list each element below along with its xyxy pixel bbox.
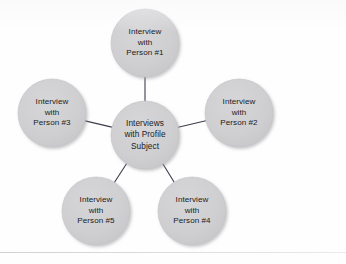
node-circle-interview-with-person-5[interactable] xyxy=(62,177,130,245)
node-circle-interview-with-person-1[interactable] xyxy=(111,9,179,77)
connector-hub-to-person-5 xyxy=(114,163,127,184)
connector-hub-to-person-4 xyxy=(162,163,174,183)
connector-hub-to-person-3 xyxy=(84,121,113,128)
node-circle-interview-with-person-2[interactable] xyxy=(205,79,273,147)
node-group xyxy=(18,9,273,245)
page-edge-rule xyxy=(0,252,346,253)
diagram-graphics xyxy=(0,0,346,264)
node-circle-interview-with-person-3[interactable] xyxy=(18,79,86,147)
node-circle-interviews-with-profile-subject[interactable] xyxy=(111,101,179,169)
connector-hub-to-person-2 xyxy=(177,121,207,128)
node-circle-interview-with-person-4[interactable] xyxy=(158,177,226,245)
diagram-canvas: Interviewswith ProfileSubjectInterviewwi… xyxy=(0,0,346,264)
